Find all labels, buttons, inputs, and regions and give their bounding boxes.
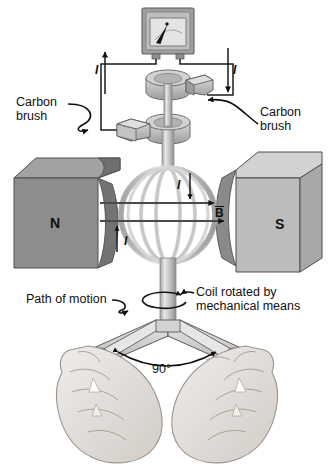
- meter-pivot: [165, 22, 168, 25]
- leader-carbon-brush-left: [68, 104, 91, 131]
- label-carbon-brush-left: Carbon brush: [16, 96, 57, 123]
- shaft-upper-segment: [164, 84, 172, 126]
- label-current-left-lead: I: [95, 63, 98, 77]
- leader-path-of-motion: [112, 300, 128, 313]
- magnet-south: [216, 152, 322, 272]
- generator-diagram-svg: [0, 0, 334, 472]
- leader-carbon-brush-right: [208, 100, 258, 124]
- shaft-lower: [160, 258, 176, 330]
- rotating-coil: [121, 168, 215, 262]
- carbon-brush-lower: [117, 119, 150, 141]
- shaft-to-coil: [162, 130, 174, 170]
- figure-canvas: Carbon brush Carbon brush Path of motion…: [0, 0, 334, 472]
- label-angle-90: 90°: [152, 362, 171, 376]
- label-b-field: B: [215, 206, 224, 220]
- label-current-coil-left: I: [124, 234, 127, 248]
- label-pole-south: S: [275, 216, 284, 232]
- north-pole-face: [98, 178, 118, 268]
- label-pole-north: N: [50, 215, 60, 231]
- leader-coil-rotated: [181, 292, 194, 294]
- magnet-north: [14, 158, 120, 268]
- label-path-of-motion: Path of motion: [26, 293, 107, 307]
- label-current-right-lead: I: [233, 63, 236, 77]
- b-field-text: B: [215, 206, 224, 220]
- label-carbon-brush-right: Carbon brush: [260, 106, 301, 133]
- label-coil-rotated: Coil rotated by mechanical means: [196, 286, 300, 313]
- label-current-coil-right: I: [177, 178, 180, 192]
- galvanometer: [142, 8, 194, 59]
